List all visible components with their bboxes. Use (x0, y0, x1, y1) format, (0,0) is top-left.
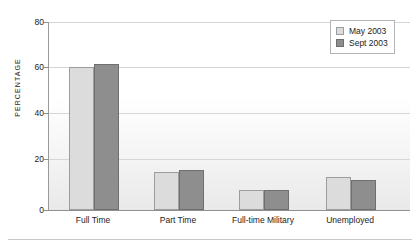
y-tick-label-80: 80 (4, 18, 44, 27)
bar-full-time-sept-2003 (94, 64, 119, 210)
y-tick-label-0: 0 (4, 206, 44, 215)
legend-item-may-2003: May 2003 (336, 25, 388, 37)
legend-label-may-2003: May 2003 (349, 26, 386, 36)
x-tick-label-full-time-military: Full-time Military (232, 215, 294, 225)
legend-item-sept-2003: Sept 2003 (336, 37, 388, 49)
legend-swatch-icon-may-2003 (336, 27, 344, 35)
bar-full-time-military-may-2003 (239, 190, 264, 210)
y-tick-label-20: 20 (4, 155, 44, 164)
bar-full-time-may-2003 (69, 67, 94, 210)
legend-label-sept-2003: Sept 2003 (349, 38, 388, 48)
bar-full-time-military-sept-2003 (264, 190, 289, 210)
y-tick-label-40: 40 (4, 109, 44, 118)
footer-divider (8, 239, 412, 240)
bar-unemployed-may-2003 (326, 177, 351, 210)
y-tick-label-60: 60 (4, 63, 44, 72)
chart-legend: May 2003 Sept 2003 (330, 20, 395, 54)
legend-swatch-icon-sept-2003 (336, 39, 344, 47)
y-axis-title: PERCENTAGE (14, 38, 21, 138)
bar-unemployed-sept-2003 (351, 180, 376, 210)
x-tick-label-full-time: Full Time (76, 215, 110, 225)
x-tick-label-part-time: Part Time (160, 215, 196, 225)
bar-part-time-sept-2003 (179, 170, 204, 210)
bar-part-time-may-2003 (154, 172, 179, 210)
bar-chart-figure: PERCENTAGE 80 60 40 20 0 Full Time Part … (0, 0, 420, 247)
x-tick-label-unemployed: Unemployed (326, 215, 374, 225)
x-axis-line (48, 210, 410, 211)
